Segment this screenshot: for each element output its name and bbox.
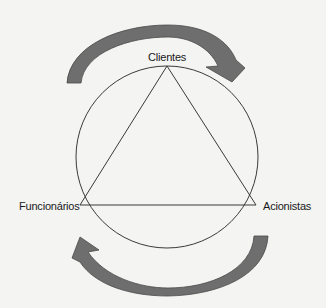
node-label-clientes: Clientes [148,51,186,63]
bottom-curved-arrow-icon [72,236,268,296]
inner-triangle [80,66,256,205]
outer-circle [76,66,258,248]
stakeholder-triangle-diagram [0,0,326,308]
node-label-acionistas: Acionistas [263,200,311,212]
node-label-funcionarios: Funcionários [19,200,80,212]
